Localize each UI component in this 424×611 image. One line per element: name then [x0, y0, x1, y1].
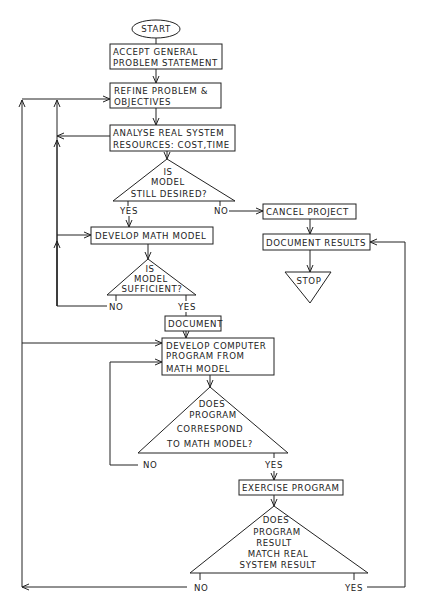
label-no: NO	[214, 206, 228, 216]
svg-text:OBJECTIVES: OBJECTIVES	[114, 97, 171, 107]
svg-text:DEVELOP COMPUTER: DEVELOP COMPUTER	[166, 341, 266, 351]
refine-problem-box: REFINE PROBLEM & OBJECTIVES	[110, 83, 221, 108]
decision-result-matches: DOES PROGRAM RESULT MATCH REAL SYSTEM RE…	[190, 506, 368, 573]
svg-text:ANALYSE REAL SYSTEM: ANALYSE REAL SYSTEM	[113, 128, 224, 138]
exercise-program-box: EXERCISE PROGRAM	[239, 480, 343, 495]
decision-model-still-desired: IS MODEL STILL DESIRED?	[113, 159, 235, 201]
svg-text:CORRESPOND: CORRESPOND	[177, 424, 244, 434]
svg-text:PROGRAM: PROGRAM	[253, 527, 301, 537]
svg-text:STILL DESIRED?: STILL DESIRED?	[131, 189, 208, 199]
svg-text:SUFFICIENT?: SUFFICIENT?	[122, 284, 183, 294]
analyse-system-box: ANALYSE REAL SYSTEM RESOURCES: COST,TIME	[110, 125, 235, 151]
accept-problem-statement-box: ACCEPT GENERAL PROBLEM STATEMENT	[110, 44, 222, 69]
svg-text:MATH MODEL: MATH MODEL	[166, 364, 230, 374]
svg-text:IS: IS	[163, 167, 172, 177]
stop-node: STOP	[285, 272, 331, 303]
decision-model-sufficient: IS MODEL SUFFICIENT?	[107, 259, 196, 295]
svg-text:PROBLEM STATEMENT: PROBLEM STATEMENT	[113, 58, 218, 68]
svg-text:SYSTEM RESULT: SYSTEM RESULT	[240, 560, 317, 570]
svg-text:DOES: DOES	[199, 399, 226, 409]
svg-text:IS: IS	[145, 264, 154, 274]
svg-text:MODEL: MODEL	[134, 274, 168, 284]
develop-computer-program-box: DEVELOP COMPUTER PROGRAM FROM MATH MODEL	[162, 338, 274, 375]
svg-text:DEVELOP MATH MODEL: DEVELOP MATH MODEL	[95, 231, 206, 241]
decision-program-corresponds: DOES PROGRAM CORRESPOND TO MATH MODEL?	[138, 387, 288, 453]
svg-text:STOP: STOP	[296, 276, 321, 286]
svg-text:ACCEPT GENERAL: ACCEPT GENERAL	[113, 47, 198, 57]
svg-text:DOCUMENT: DOCUMENT	[168, 319, 223, 329]
svg-text:RESULT: RESULT	[256, 538, 292, 548]
svg-text:RESOURCES: COST,TIME: RESOURCES: COST,TIME	[113, 140, 230, 150]
label-no: NO	[194, 583, 208, 593]
svg-text:PROGRAM FROM: PROGRAM FROM	[166, 351, 245, 361]
svg-text:EXERCISE PROGRAM: EXERCISE PROGRAM	[242, 483, 340, 493]
svg-text:PROGRAM: PROGRAM	[189, 410, 237, 420]
svg-text:MATCH REAL: MATCH REAL	[248, 549, 309, 559]
svg-text:START: START	[141, 24, 171, 34]
label-yes: YES	[119, 206, 138, 216]
svg-text:MODEL: MODEL	[151, 177, 185, 187]
label-yes: YES	[344, 583, 363, 593]
flowchart-canvas: START ACCEPT GENERAL PROBLEM STATEMENT R…	[0, 0, 424, 611]
svg-text:DOES: DOES	[263, 515, 290, 525]
start-node: START	[132, 20, 180, 38]
svg-text:TO MATH MODEL?: TO MATH MODEL?	[166, 439, 253, 449]
label-yes: YES	[264, 460, 283, 470]
svg-text:REFINE PROBLEM &: REFINE PROBLEM &	[114, 86, 208, 96]
label-no: NO	[143, 460, 157, 470]
document-results-box: DOCUMENT RESULTS	[263, 234, 370, 250]
cancel-project-box: CANCEL PROJECT	[263, 204, 356, 219]
document-box: DOCUMENT	[165, 316, 223, 331]
label-yes: YES	[177, 302, 196, 312]
svg-text:DOCUMENT RESULTS: DOCUMENT RESULTS	[266, 238, 366, 248]
svg-text:CANCEL PROJECT: CANCEL PROJECT	[266, 207, 349, 217]
label-no: NO	[109, 302, 123, 312]
develop-math-model-box: DEVELOP MATH MODEL	[91, 227, 213, 244]
